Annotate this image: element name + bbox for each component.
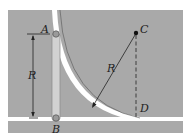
label-R-left: R xyxy=(27,69,36,82)
label-R-radius: R xyxy=(106,62,115,75)
pin-A xyxy=(53,31,59,37)
point-C xyxy=(134,31,138,35)
label-C: C xyxy=(140,23,149,36)
pin-B xyxy=(53,115,59,121)
mechanism-diagram: A B C D R R xyxy=(0,0,188,140)
label-A: A xyxy=(40,23,49,36)
rod-AB xyxy=(52,33,60,121)
label-B: B xyxy=(51,123,60,136)
label-D: D xyxy=(139,102,149,115)
